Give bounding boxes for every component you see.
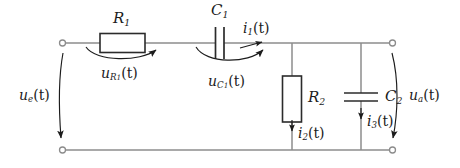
label-u-e: ue(t)	[19, 88, 50, 104]
output-terminal-bottom-icon	[390, 147, 396, 153]
capacitor-c2-icon	[344, 93, 378, 101]
input-terminal-bottom-icon	[60, 147, 66, 153]
wire-group	[62, 43, 389, 150]
label-c1: C1	[211, 3, 228, 19]
voltage-arrow-ue-icon	[59, 53, 63, 138]
label-u-c1: uC1(t)	[208, 74, 245, 90]
voltage-arrow-uc1-icon	[196, 47, 263, 60]
capacitor-c1-icon	[216, 27, 225, 59]
label-u-r1: uR1(t)	[101, 66, 138, 82]
resistor-r1-icon	[100, 34, 145, 53]
label-i3: i3(t)	[367, 114, 394, 130]
label-u-a: ua(t)	[409, 88, 440, 104]
output-terminal-top-icon	[390, 40, 396, 46]
label-r2: R2	[308, 90, 325, 106]
label-r1: R1	[113, 11, 130, 27]
input-terminal-top-icon	[60, 40, 66, 46]
circuit-diagram: R1 C1 R2 C2 ue(t) ua(t) uR1(t) uC1(t) i1…	[0, 0, 460, 168]
resistor-r2-icon	[283, 76, 302, 122]
label-c2: C2	[385, 89, 402, 105]
label-i2: i2(t)	[298, 126, 325, 142]
label-i1: i1(t)	[243, 21, 270, 37]
terminal-group	[60, 40, 396, 153]
